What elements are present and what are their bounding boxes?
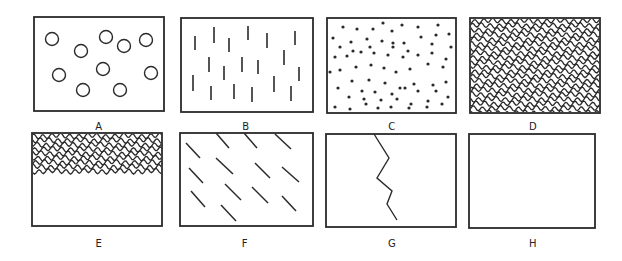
dot-mark [434, 89, 437, 92]
dot-mark [336, 86, 339, 89]
dot-mark [381, 21, 384, 24]
dot-mark [391, 41, 394, 44]
diagonal-mark [244, 133, 257, 148]
dot-mark [350, 79, 353, 82]
dot-mark [412, 82, 415, 85]
panel-frame [326, 134, 456, 227]
dot-mark [444, 80, 447, 83]
wavy-hatch [468, 18, 602, 116]
panel-label-g: G [388, 238, 396, 249]
panel-label-c: C [388, 121, 395, 132]
dot-mark [394, 70, 397, 73]
dot-mark [390, 92, 393, 95]
circle-mark [114, 84, 127, 97]
diagonal-mark [186, 143, 200, 158]
circle-mark [100, 31, 113, 44]
panel-c [327, 18, 456, 113]
diagonal-mark [225, 184, 241, 200]
circle-mark [77, 84, 90, 97]
diagonal-mark [252, 187, 268, 203]
panel-label-e: E [96, 238, 103, 249]
dot-mark [365, 37, 368, 40]
dot-mark [382, 66, 385, 69]
dot-mark [383, 81, 386, 84]
dot-mark [416, 89, 419, 92]
diagonal-mark [216, 133, 229, 148]
dot-mark [328, 70, 331, 73]
panel-d [468, 18, 602, 116]
dot-mark [331, 36, 334, 39]
dot-mark [403, 86, 406, 89]
dot-mark [373, 90, 376, 93]
circle-mark [97, 63, 110, 76]
dot-mark [367, 78, 370, 81]
dot-mark [441, 65, 444, 68]
dot-mark [416, 53, 419, 56]
dot-mark [426, 99, 429, 102]
dot-mark [372, 51, 375, 54]
panel-g [326, 134, 456, 227]
dot-mark [446, 95, 449, 98]
dot-mark [390, 29, 393, 32]
wavy-hatch [30, 133, 164, 174]
dot-mark [419, 35, 422, 38]
dot-mark [351, 49, 354, 52]
dot-mark [376, 106, 379, 109]
dot-mark [407, 106, 410, 109]
circle-mark [118, 40, 131, 53]
dot-mark [416, 25, 419, 28]
dot-mark [379, 98, 382, 101]
dot-mark [426, 62, 429, 65]
diagonal-mark [191, 191, 205, 207]
diagonal-mark [255, 163, 270, 178]
dot-mark [362, 97, 365, 100]
dot-mark [369, 63, 372, 66]
dot-mark [360, 89, 363, 92]
dot-mark [371, 27, 374, 30]
diagonal-mark [221, 205, 236, 221]
dot-mark [436, 23, 439, 26]
dot-mark [348, 107, 351, 110]
dot-mark [345, 54, 348, 57]
panel-label-f: F [242, 238, 248, 249]
circle-mark [145, 67, 158, 80]
dot-mark [402, 41, 405, 44]
dot-mark [389, 105, 392, 108]
panel-label-d: D [529, 121, 537, 132]
panel-label-a: A [95, 121, 102, 132]
dot-mark [449, 45, 452, 48]
dot-mark [333, 55, 336, 58]
dot-mark [368, 45, 371, 48]
dot-mark [447, 32, 450, 35]
dot-mark [401, 55, 404, 58]
dot-mark [444, 57, 447, 60]
dot-mark [391, 45, 394, 48]
dot-mark [406, 49, 409, 52]
dot-mark [347, 95, 350, 98]
dot-mark [333, 105, 336, 108]
panel-frame [469, 134, 595, 228]
dot-mark [355, 27, 358, 30]
diagonal-mark [216, 158, 233, 174]
dot-mark [434, 33, 437, 36]
dot-mark [408, 67, 411, 70]
panel-e [30, 133, 164, 226]
circle-mark [46, 33, 59, 46]
dot-mark [409, 102, 412, 105]
dot-mark [430, 51, 433, 54]
panel-h [469, 134, 595, 228]
panel-label-b: B [242, 121, 249, 132]
panel-f [180, 133, 313, 226]
dot-mark [430, 42, 433, 45]
diagonal-mark [189, 168, 203, 183]
circle-mark [140, 34, 153, 47]
panel-label-h: H [529, 238, 537, 249]
panel-a [34, 17, 164, 111]
dot-mark [386, 53, 389, 56]
dot-mark [359, 50, 362, 53]
dot-mark [400, 23, 403, 26]
diagonal-mark [282, 196, 296, 211]
dot-mark [398, 86, 401, 89]
dot-mark [338, 68, 341, 71]
circle-mark [75, 45, 88, 58]
